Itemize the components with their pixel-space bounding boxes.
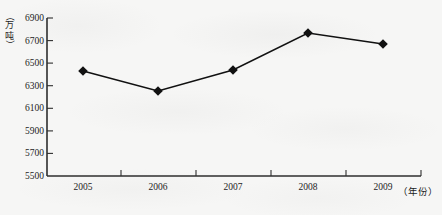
data-point-marker[interactable] <box>378 39 388 49</box>
chart-figure: （ 万 吨 ） 6900 6700 6500 6300 6100 5900 57… <box>0 0 442 215</box>
x-tick-label: 2007 <box>211 182 255 193</box>
x-tick-label: 2006 <box>136 182 180 193</box>
data-point-marker[interactable] <box>78 66 88 76</box>
data-point-marker[interactable] <box>228 65 238 75</box>
x-axis-title: （年份） <box>398 184 438 198</box>
series-line <box>83 33 383 91</box>
x-tick-label: 2008 <box>286 182 330 193</box>
data-point-marker[interactable] <box>153 86 163 96</box>
data-point-marker[interactable] <box>303 28 313 38</box>
x-tick-label: 2005 <box>61 182 105 193</box>
